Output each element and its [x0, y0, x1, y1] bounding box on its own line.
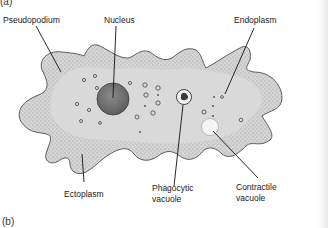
label-phagocytic-line2: vacuole — [152, 194, 194, 205]
page-edge-shadow — [318, 0, 328, 228]
label-ectoplasm: Ectoplasm — [64, 189, 104, 200]
contractile-vacuole — [202, 119, 219, 136]
label-contractile-vacuole: Contractile vacuole — [236, 182, 277, 204]
label-phagocytic-vacuole: Phagocytic vacuole — [152, 183, 194, 205]
amoeba-diagram: (a) — [0, 0, 328, 228]
phagocytic-vacuole — [177, 90, 192, 105]
label-nucleus: Nucleus — [104, 15, 135, 26]
label-contractile-line2: vacuole — [236, 193, 277, 204]
endoplasm-region — [50, 67, 262, 143]
panel-b-label: (b) — [2, 217, 14, 227]
label-endoplasm: Endoplasm — [234, 15, 277, 26]
label-contractile-line1: Contractile — [236, 182, 277, 193]
label-phagocytic-line1: Phagocytic — [152, 183, 194, 194]
label-pseudopodium: Pseudopodium — [3, 15, 60, 26]
